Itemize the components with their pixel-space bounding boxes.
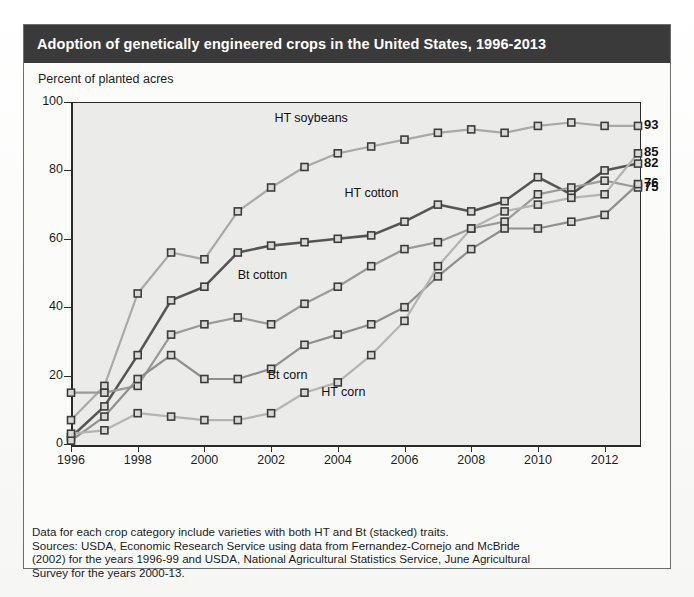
footnote-line-3: (2002) for the years 1996-99 and USDA, N… xyxy=(32,552,662,566)
x-axis-tick-mark xyxy=(471,446,472,452)
series-label-ht-corn: HT corn xyxy=(321,385,365,399)
y-axis-tick-label: 40 xyxy=(29,299,63,313)
x-axis-tick-label: 2012 xyxy=(583,453,627,467)
series-label-ht-soybeans: HT soybeans xyxy=(274,111,347,125)
x-axis-tick-label: 2010 xyxy=(516,453,560,467)
x-axis-tick-label: 2004 xyxy=(316,453,360,467)
chart-plot-region: 0204060801001996199820002002200420062008… xyxy=(24,25,670,568)
y-axis-tick-label: 0 xyxy=(29,436,63,450)
y-axis-tick-label: 60 xyxy=(29,231,63,245)
x-axis-tick-mark xyxy=(538,446,539,452)
x-axis-tick-mark xyxy=(605,446,606,452)
x-axis-tick-mark xyxy=(138,446,139,452)
x-axis-tick-label: 2006 xyxy=(383,453,427,467)
y-axis-tick-mark xyxy=(64,444,71,445)
figure-frame: Adoption of genetically engineered crops… xyxy=(23,24,671,569)
end-value-label-bt-cotton: 75 xyxy=(644,179,658,194)
x-axis-tick-label: 2000 xyxy=(182,453,226,467)
footnote-line-4: Survey for the years 2000-13. xyxy=(32,566,662,580)
y-axis-tick-mark xyxy=(64,376,71,377)
x-axis-tick-label: 2008 xyxy=(449,453,493,467)
end-value-label-ht-cotton: 82 xyxy=(644,155,658,170)
page-root: Adoption of genetically engineered crops… xyxy=(0,0,694,597)
y-axis-tick-mark xyxy=(64,170,71,171)
x-axis-tick-mark xyxy=(405,446,406,452)
chart-footnote: Data for each crop category include vari… xyxy=(32,525,662,579)
x-axis-tick-label: 1996 xyxy=(49,453,93,467)
x-axis-tick-mark xyxy=(338,446,339,452)
x-axis-tick-mark xyxy=(71,446,72,452)
series-label-bt-cotton: Bt cotton xyxy=(238,268,287,282)
y-axis-tick-label: 20 xyxy=(29,368,63,382)
y-axis-tick-label: 80 xyxy=(29,162,63,176)
y-axis-tick-mark xyxy=(64,102,71,103)
x-axis-tick-mark xyxy=(271,446,272,452)
x-axis-tick-label: 1998 xyxy=(116,453,160,467)
y-axis-tick-label: 100 xyxy=(29,94,63,108)
y-axis-tick-mark xyxy=(64,307,71,308)
end-value-label-ht-soybeans: 93 xyxy=(644,117,658,132)
series-label-ht-cotton: HT cotton xyxy=(344,186,398,200)
footnote-line-1: Data for each crop category include vari… xyxy=(32,525,662,539)
x-axis-tick-mark xyxy=(204,446,205,452)
y-axis-tick-mark xyxy=(64,239,71,240)
footnote-line-2: Sources: USDA, Economic Research Service… xyxy=(32,539,662,553)
series-label-bt-corn: Bt corn xyxy=(268,368,308,382)
x-axis-tick-label: 2002 xyxy=(249,453,293,467)
